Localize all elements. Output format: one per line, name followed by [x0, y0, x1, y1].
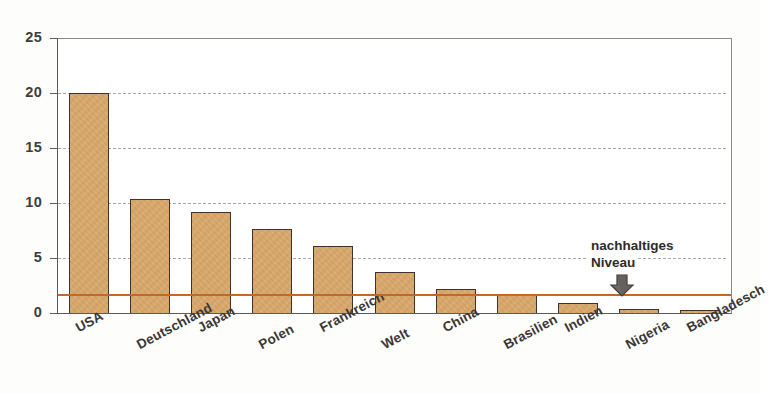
annotation-nachhaltiges: nachhaltiges	[588, 238, 677, 255]
y-axis-label-20: 20	[0, 84, 42, 100]
y-tick-20	[50, 93, 58, 94]
bar-polen	[252, 229, 292, 313]
down-arrow-icon	[609, 274, 635, 298]
bar-nigeria	[619, 309, 659, 313]
bar-japan	[191, 212, 231, 313]
x-axis-label-brasilien: Brasilien	[501, 311, 560, 352]
y-tick-0	[50, 313, 58, 314]
x-axis-label-polen: Polen	[256, 321, 296, 352]
bar-brasilien	[497, 295, 537, 313]
y-tick-15	[50, 148, 58, 149]
bar-usa	[69, 93, 109, 313]
bar-frankreich	[313, 246, 353, 313]
gridline-15	[58, 148, 726, 149]
y-axis-label-25: 25	[0, 29, 42, 45]
x-axis-label-welt: Welt	[379, 325, 412, 352]
y-tick-5	[50, 258, 58, 259]
y-tick-25	[50, 38, 58, 39]
x-axis-label-nigeria: Nigeria	[623, 317, 672, 352]
y-axis-label-5: 5	[0, 249, 42, 265]
annotation-niveau: Niveau	[588, 255, 638, 272]
gridline-20	[58, 93, 726, 94]
y-axis-label-15: 15	[0, 139, 42, 155]
y-axis-label-0: 0	[0, 304, 42, 320]
y-tick-10	[50, 203, 58, 204]
y-axis-label-10: 10	[0, 194, 42, 210]
